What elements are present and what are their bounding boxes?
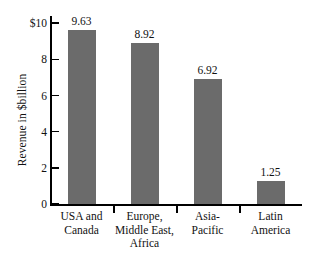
bar bbox=[68, 30, 96, 204]
x-tick-label-line: Canada bbox=[46, 224, 117, 238]
y-tick-label: 4 bbox=[1, 127, 47, 138]
y-tick-label: 2 bbox=[1, 163, 47, 174]
x-tick-label-line: USA and bbox=[46, 210, 117, 224]
chart-figure: Revenue in $billion 02468$10 9.638.926.9… bbox=[0, 0, 327, 267]
x-tick-label: Asia-Pacific bbox=[172, 210, 243, 237]
x-tick-label-line: Middle East, bbox=[109, 224, 180, 238]
x-tick-label: LatinAmerica bbox=[235, 210, 306, 237]
x-tick-label-line: Pacific bbox=[172, 224, 243, 238]
x-tick-label-line: Latin bbox=[235, 210, 306, 224]
y-tick-label: $10 bbox=[1, 18, 47, 29]
bar-value-label: 9.63 bbox=[56, 15, 108, 27]
x-tick-label: USA andCanada bbox=[46, 210, 117, 237]
x-tick-label-line: America bbox=[235, 224, 306, 238]
bar-value-label: 8.92 bbox=[119, 28, 171, 40]
x-tick-label-line: Asia- bbox=[172, 210, 243, 224]
y-tick-mark bbox=[52, 131, 59, 133]
y-axis-line bbox=[50, 16, 52, 206]
bar-value-label: 1.25 bbox=[245, 166, 297, 178]
bar bbox=[131, 43, 159, 204]
y-tick-mark bbox=[52, 95, 59, 97]
x-tick-label-line: Europe, bbox=[109, 210, 180, 224]
y-tick-mark bbox=[52, 203, 59, 205]
y-axis-label: Revenue in $billion bbox=[16, 20, 32, 220]
x-tick-label-line: Africa bbox=[109, 237, 180, 251]
y-tick-mark bbox=[52, 59, 59, 61]
y-tick-label: 6 bbox=[1, 91, 47, 102]
plot-area: 02468$10 9.638.926.921.25 bbox=[50, 16, 302, 206]
bar bbox=[194, 79, 222, 204]
bar bbox=[257, 181, 285, 204]
y-tick-mark bbox=[52, 167, 59, 169]
bar-value-label: 6.92 bbox=[182, 64, 234, 76]
y-tick-label: 0 bbox=[1, 199, 47, 210]
y-tick-label: 8 bbox=[1, 54, 47, 65]
x-tick-label: Europe,Middle East,Africa bbox=[109, 210, 180, 251]
